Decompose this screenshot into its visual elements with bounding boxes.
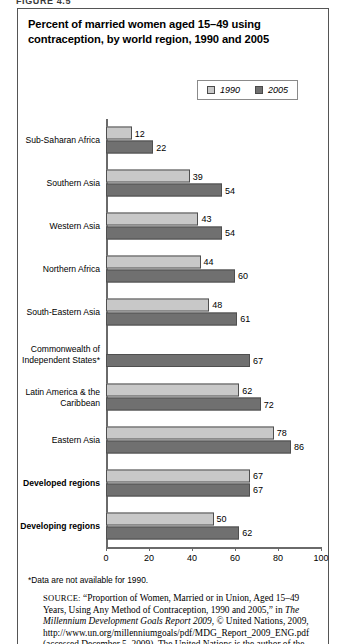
bar-group: 4460	[106, 255, 321, 282]
chart-row: Developed regions6767	[106, 461, 321, 504]
chart-row: Northern Africa4460	[106, 247, 321, 290]
figure-frame: Percent of married women aged 15–49 usin…	[17, 8, 329, 644]
bar-value-label: 67	[253, 356, 263, 366]
bar-1990: 62	[106, 384, 239, 397]
bar-value-label: 50	[217, 514, 227, 524]
x-axis-tick	[278, 547, 279, 551]
bar-value-label: 72	[264, 399, 274, 409]
x-axis-tick	[192, 547, 193, 551]
bar-value-label: 48	[212, 300, 222, 310]
bar-value-label: 67	[253, 485, 263, 495]
bar-value-label: 86	[294, 442, 304, 452]
category-label: Developing regions	[8, 520, 100, 531]
category-label: Sub-Saharan Africa	[8, 135, 100, 146]
figure-label: FIGURE 4.5	[16, 0, 71, 6]
bar-value-label: 44	[204, 257, 214, 267]
category-label: Northern Africa	[8, 264, 100, 275]
category-label: South-Eastern Asia	[8, 306, 100, 317]
source-prefix: SOURCE:	[43, 593, 81, 603]
category-label: Southern Asia	[8, 178, 100, 189]
bar-value-label: 60	[238, 271, 248, 281]
bar-group: 6272	[106, 384, 321, 411]
chart-footnote: *Data are not available for 1990.	[28, 575, 318, 586]
bar-group: 7886	[106, 426, 321, 453]
bar-2005: 67	[106, 483, 250, 496]
x-axis-tick	[321, 547, 322, 551]
legend-label-2005: 2005	[268, 85, 288, 95]
chart-row: Developing regions5062	[106, 504, 321, 547]
chart-row: Latin America & the Caribbean6272	[106, 376, 321, 419]
x-axis-tick	[235, 547, 236, 551]
bar-1990: 50	[106, 512, 214, 525]
bar-group: 6767	[106, 469, 321, 496]
x-axis-tick-label: 20	[144, 553, 154, 563]
chart-row: South-Eastern Asia4861	[106, 290, 321, 333]
figure-container: FIGURE 4.5 Percent of married women aged…	[0, 0, 346, 644]
bar-value-label: 62	[242, 385, 252, 395]
bar-2005: 86	[106, 440, 291, 453]
x-axis-tick-label: 80	[273, 553, 283, 563]
legend-item-1990: 1990	[207, 85, 240, 95]
bar-missing-1990	[106, 341, 321, 354]
bar-group: 4354	[106, 212, 321, 239]
bar-1990: 39	[106, 170, 190, 183]
source-text-1: “Proportion of Women, Married or in Unio…	[43, 593, 299, 615]
bar-1990: 67	[106, 469, 250, 482]
bar-group: 67	[106, 341, 321, 367]
bar-value-label: 62	[242, 528, 252, 538]
source-note: SOURCE: “Proportion of Women, Married or…	[43, 593, 315, 644]
category-label: Latin America & the Caribbean	[8, 387, 100, 408]
bar-1990: 44	[106, 255, 201, 268]
x-axis-tick-label: 60	[230, 553, 240, 563]
bar-value-label: 22	[156, 142, 166, 152]
category-label: Developed regions	[8, 478, 100, 489]
bar-2005: 60	[106, 269, 235, 282]
chart-row: Southern Asia3954	[106, 162, 321, 205]
chart-row: Commonwealth of Independent States*67	[106, 333, 321, 376]
bar-value-label: 43	[201, 214, 211, 224]
bar-1990: 43	[106, 212, 198, 225]
bar-value-label: 67	[253, 471, 263, 481]
bar-2005: 54	[106, 184, 222, 197]
bar-2005: 54	[106, 226, 222, 239]
bar-2005: 62	[106, 526, 239, 539]
bar-group: 4861	[106, 298, 321, 325]
legend-label-1990: 1990	[220, 85, 240, 95]
category-label: Western Asia	[8, 221, 100, 232]
chart-legend: 1990 2005	[197, 80, 298, 100]
bar-1990: 48	[106, 298, 209, 311]
bar-value-label: 78	[277, 428, 287, 438]
x-axis-line	[106, 547, 321, 549]
bar-group: 5062	[106, 512, 321, 539]
square-swatch-icon	[255, 86, 263, 94]
chart-title: Percent of married women aged 15–49 usin…	[28, 17, 320, 46]
bar-1990: 12	[106, 127, 132, 140]
chart-row: Eastern Asia7886	[106, 419, 321, 462]
bar-2005: 61	[106, 312, 237, 325]
bar-value-label: 54	[225, 185, 235, 195]
bar-2005: 72	[106, 398, 261, 411]
plot-area: Sub-Saharan Africa1222Southern Asia3954W…	[106, 119, 321, 547]
bar-2005: 22	[106, 141, 153, 154]
bar-value-label: 39	[193, 171, 203, 181]
bar-group: 3954	[106, 170, 321, 197]
square-swatch-icon	[207, 86, 215, 94]
x-axis-tick-label: 40	[187, 553, 197, 563]
category-label: Eastern Asia	[8, 435, 100, 446]
x-axis-tick	[149, 547, 150, 551]
bar-group: 1222	[106, 127, 321, 154]
bar-1990: 78	[106, 426, 274, 439]
category-label: Commonwealth of Independent States*	[8, 344, 100, 365]
bar-value-label: 54	[225, 228, 235, 238]
x-axis: 020406080100	[106, 547, 321, 571]
legend-item-2005: 2005	[255, 85, 288, 95]
x-axis-tick-label: 100	[313, 553, 328, 563]
bar-2005: 67	[106, 354, 250, 367]
chart-row: Western Asia4354	[106, 205, 321, 248]
x-axis-tick-label: 0	[103, 553, 108, 563]
x-axis-tick	[106, 547, 107, 551]
bar-value-label: 12	[135, 128, 145, 138]
bar-value-label: 61	[240, 314, 250, 324]
chart-row: Sub-Saharan Africa1222	[106, 119, 321, 162]
